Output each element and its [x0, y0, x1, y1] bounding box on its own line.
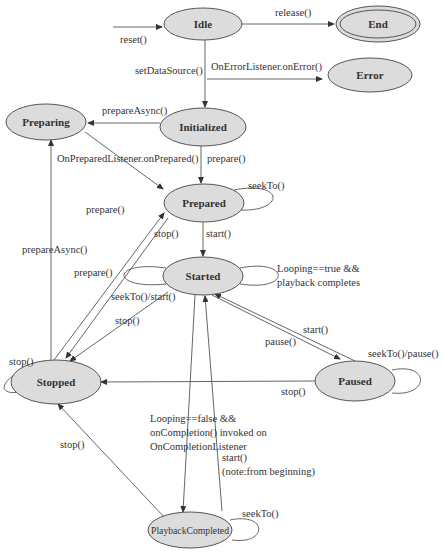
- transition-label: start(): [206, 228, 232, 240]
- transition-label: reset(): [120, 34, 147, 46]
- transition-label: Looping==false &&: [150, 413, 236, 424]
- state-label: Error: [356, 69, 383, 81]
- state-label: End: [368, 18, 388, 30]
- transition-label: stop(): [9, 356, 34, 368]
- state-label: PlaybackCompleted: [151, 524, 229, 536]
- state-playbackcompleted: PlaybackCompleted: [148, 512, 232, 548]
- transition-label: setDataSource(): [135, 65, 203, 77]
- transition-label: prepareAsync(): [102, 105, 168, 117]
- state-label: Preparing: [22, 116, 70, 128]
- transition-label: prepare(): [207, 153, 246, 165]
- transition-label: stop(): [154, 228, 179, 240]
- transition-label: pause(): [265, 336, 296, 348]
- state-label: Idle: [194, 18, 212, 30]
- state-preparing: Preparing: [6, 104, 86, 140]
- transition-seekto-start-started: [124, 267, 166, 285]
- transition-stop-completed: [58, 404, 165, 518]
- transition-start-paused: [215, 294, 355, 361]
- state-label: Paused: [338, 375, 372, 387]
- transition-label: prepare(): [86, 204, 125, 216]
- transition-start-completed: [205, 296, 222, 511]
- transition-prepare-stopped: [54, 213, 164, 360]
- transition-label: OnCompletionListener: [150, 441, 247, 452]
- transition-label: Looping==true &&: [277, 263, 360, 274]
- state-idle: Idle: [164, 8, 242, 40]
- state-label: Prepared: [182, 197, 226, 209]
- transition-label: seekTo(): [248, 180, 285, 192]
- transition-label: seekTo(): [242, 508, 279, 520]
- transition-label: (note:from beginning): [222, 466, 316, 478]
- transition-label: playback completes: [277, 277, 360, 288]
- transition-stop-started: [70, 292, 168, 361]
- transition-stop-paused: [101, 381, 315, 382]
- transition-label: stop(): [60, 439, 85, 451]
- transition-label: prepareAsync(): [22, 244, 88, 256]
- transition-label: OnErrorListener.onError(): [211, 61, 323, 73]
- transition-label: OnPreparedListener.onPrepared(): [57, 153, 199, 165]
- transition-label: start(): [222, 452, 248, 464]
- state-prepared: Prepared: [164, 184, 244, 222]
- transition-seekto-pause-paused: [392, 369, 421, 394]
- mediaplayer-state-diagram: IdleEndErrorPreparingInitializedPrepared…: [0, 0, 444, 555]
- state-label: Started: [186, 270, 221, 282]
- transition-label: seekTo()/start(): [111, 291, 176, 303]
- transition-seekto-completed: [230, 519, 259, 541]
- state-error: Error: [328, 58, 412, 92]
- transition-looping-false: [183, 295, 195, 512]
- state-paused: Paused: [315, 361, 395, 401]
- state-label: Stopped: [37, 376, 76, 388]
- transition-stop-prepared: [66, 218, 168, 358]
- state-end: End: [336, 6, 420, 42]
- state-started: Started: [163, 257, 243, 295]
- transition-label: onCompletion() invoked on: [150, 427, 267, 439]
- transition-label: seekTo()/pause(): [368, 348, 439, 360]
- transition-looping-true: [240, 266, 278, 285]
- transition-label: stop(): [281, 386, 306, 398]
- transition-label: prepare(): [74, 267, 113, 279]
- state-initialized: Initialized: [160, 108, 246, 146]
- transition-label: stop(): [115, 315, 140, 327]
- transition-label: start(): [303, 324, 329, 336]
- transition-label: release(): [275, 7, 312, 19]
- state-label: Initialized: [179, 121, 227, 133]
